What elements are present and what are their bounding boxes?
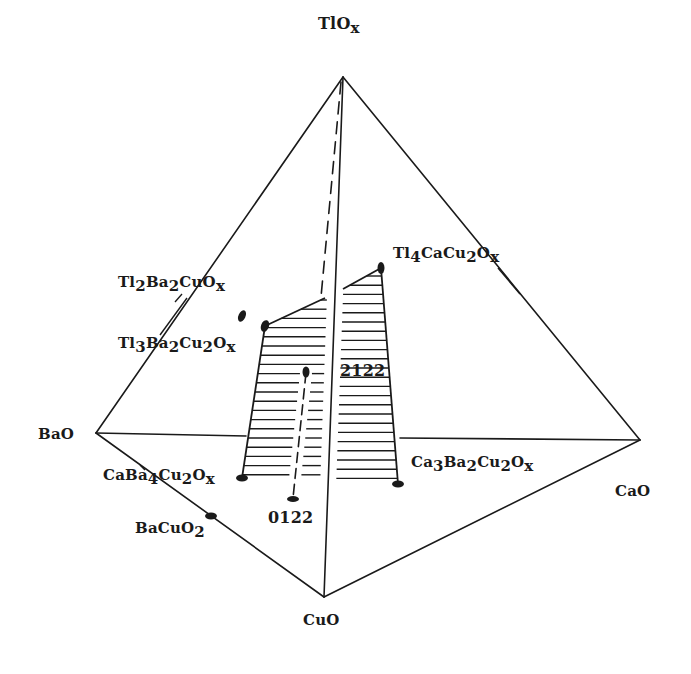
formula-part: CaBa: [103, 466, 148, 484]
subscript: 2: [500, 457, 511, 475]
subscript: 2: [169, 277, 180, 295]
label-tl2ba2cuox: Tl2Ba2CuOx: [118, 275, 225, 290]
formula-part: Ba: [444, 453, 467, 471]
subscript: 2: [182, 470, 193, 488]
formula-part: Cu: [477, 453, 500, 471]
dashed-line-apex-2122: [321, 82, 341, 297]
subscript: x: [216, 277, 225, 295]
formula-part: Ba: [146, 273, 169, 291]
subscript: 2: [135, 277, 146, 295]
formula-part: Ca: [411, 453, 433, 471]
edge-apex-cuo: [324, 77, 343, 597]
formula-part: O: [511, 453, 524, 471]
edge-bao-cao-left: [96, 433, 246, 436]
formula-part: Tl: [118, 334, 135, 352]
formula-part: Ba: [146, 334, 169, 352]
subscript: x: [206, 470, 215, 488]
pointer-tl3ba2cu2ox: [160, 298, 187, 335]
label-bao: BaO: [38, 427, 74, 442]
label-ca3ba2cu2ox: Ca3Ba2Cu2Ox: [411, 455, 533, 470]
formula-part: CaCu: [421, 244, 466, 262]
label-0122: 0122: [268, 510, 313, 526]
formula-part: Tl: [118, 273, 135, 291]
label-2122: 2122: [340, 363, 385, 379]
label-cao: CaO: [615, 484, 650, 499]
formula-part: O: [477, 244, 490, 262]
point-0122: [287, 496, 299, 502]
subscript: x: [227, 338, 236, 356]
formula-part: O: [213, 334, 226, 352]
formula-part: BaCuO: [135, 519, 194, 537]
subscript: 2: [466, 248, 477, 266]
subscript: 4: [148, 470, 159, 488]
point-tl4cacu2ox: [378, 262, 385, 274]
formula-part: CuO: [179, 273, 216, 291]
label-tl4cacu2ox: Tl4CaCu2Ox: [393, 246, 499, 261]
formula-part: Tl: [393, 244, 410, 262]
pointer-tl4cacu2ox: [498, 268, 520, 294]
point-2122: [303, 367, 310, 378]
label-tl3ba2cu2ox: Tl3Ba2Cu2Ox: [118, 336, 236, 351]
subscript: 4: [410, 248, 421, 266]
subscript: 3: [433, 457, 444, 475]
subscript: x: [490, 248, 499, 266]
point-tl3ba2cu2ox: [259, 319, 271, 333]
hatch-left-top-border: [265, 298, 325, 326]
hatch-left-border: [242, 326, 265, 478]
edge-bao-cao-right: [400, 438, 640, 440]
phase-tetrahedron-diagram: [0, 0, 691, 674]
formula-part: O: [192, 466, 205, 484]
subscript: 2: [169, 338, 180, 356]
pointer-tl2ba2cuox: [175, 294, 182, 302]
subscript: 2: [467, 457, 478, 475]
point-ca3ba2cu2ox: [392, 481, 404, 488]
subscript: 3: [135, 338, 146, 356]
formula-part: Cu: [179, 334, 202, 352]
formula-part: Cu: [159, 466, 182, 484]
label-caba4cu2ox: CaBa4Cu2Ox: [103, 468, 215, 483]
label-apex-tlox: TlOx: [318, 16, 360, 32]
label-bacuo2: BaCuO2: [135, 521, 205, 536]
point-caba4cu2ox: [236, 475, 248, 482]
subscript: 2: [203, 338, 214, 356]
point-tl2ba2cuox: [236, 309, 247, 323]
subscript: x: [524, 457, 533, 475]
label-cuo: CuO: [303, 613, 340, 628]
subscript: 2: [194, 523, 205, 541]
point-bacuo2: [205, 513, 217, 520]
